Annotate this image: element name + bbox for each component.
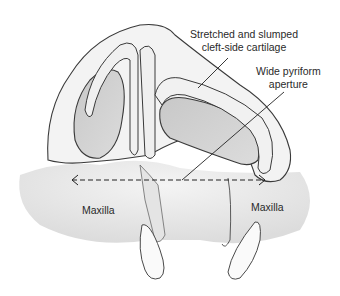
aperture-label-line1: Wide pyriform — [256, 65, 321, 78]
aperture-label-line2: aperture — [256, 78, 321, 91]
cartilage-label: Stretched and slumped cleft-side cartila… — [190, 28, 298, 54]
cartilage-label-line2: cleft-side cartilage — [190, 41, 298, 54]
aperture-label: Wide pyriform aperture — [256, 65, 321, 91]
maxilla-right-label: Maxilla — [251, 201, 284, 214]
maxilla-left-label: Maxilla — [82, 204, 115, 217]
cartilage-label-line1: Stretched and slumped — [190, 28, 298, 41]
